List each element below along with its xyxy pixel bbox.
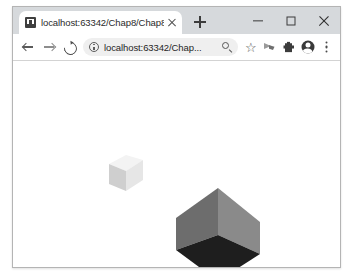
- zoom-icon[interactable]: [221, 41, 234, 54]
- three-dots-icon: [325, 41, 328, 54]
- star-icon: ☆: [245, 41, 257, 54]
- minimize-button[interactable]: [241, 7, 274, 34]
- address-bar[interactable]: localhost:63342/Chap...: [83, 38, 238, 56]
- close-icon: [317, 14, 330, 27]
- puzzle-piece-icon: [283, 42, 294, 53]
- extensions-button[interactable]: [279, 37, 298, 58]
- back-button[interactable]: [17, 37, 38, 58]
- browser-window: localhost:63342/Chap8/Chap8: [12, 6, 341, 268]
- document-favicon-icon: [25, 17, 36, 28]
- reload-button[interactable]: [59, 37, 80, 58]
- bookmark-button[interactable]: ☆: [241, 37, 260, 58]
- browser-tab[interactable]: localhost:63342/Chap8/Chap8: [19, 11, 182, 34]
- maximize-button[interactable]: [274, 7, 307, 34]
- ribbon-icon: [264, 42, 276, 52]
- window-controls: [241, 7, 340, 34]
- profile-button[interactable]: [298, 37, 317, 58]
- tab-title: localhost:63342/Chap8/Chap8: [41, 17, 164, 28]
- ribbon-extension-button[interactable]: [260, 37, 279, 58]
- screenshot-root: localhost:63342/Chap8/Chap8: [0, 0, 353, 280]
- site-info-icon[interactable]: [89, 42, 99, 52]
- reload-icon: [61, 39, 79, 57]
- large-gray-cube: [176, 188, 260, 267]
- tab-strip: localhost:63342/Chap8/Chap8: [13, 7, 340, 34]
- close-window-button[interactable]: [307, 7, 340, 34]
- forward-button[interactable]: [38, 37, 59, 58]
- url-text[interactable]: localhost:63342/Chap...: [104, 42, 219, 53]
- small-light-cube: [109, 155, 143, 191]
- page-content: [13, 61, 340, 267]
- maximize-icon: [286, 16, 295, 25]
- webgl-cube-scene: [13, 61, 340, 267]
- new-tab-button[interactable]: [191, 13, 209, 31]
- avatar-icon: [301, 41, 314, 54]
- chrome-menu-button[interactable]: [317, 37, 336, 58]
- minimize-icon: [253, 20, 263, 21]
- browser-toolbar: localhost:63342/Chap... ☆: [13, 34, 340, 61]
- arrow-left-icon: [23, 42, 33, 52]
- arrow-right-icon: [44, 42, 54, 52]
- close-tab-icon[interactable]: [166, 17, 178, 29]
